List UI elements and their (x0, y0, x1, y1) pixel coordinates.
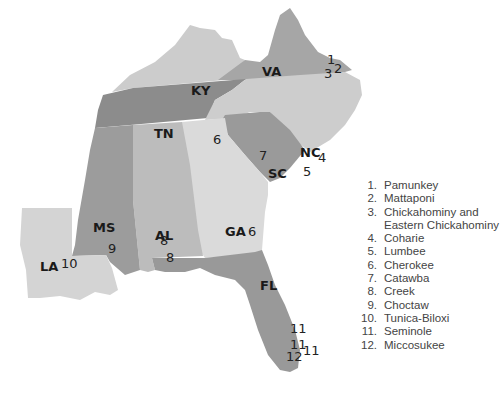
legend-item: 5.Lumbee (355, 245, 504, 258)
legend-item: 12.Miccosukee (355, 339, 504, 352)
marker-6-nc: 6 (213, 132, 221, 147)
marker-8-a: 8 (160, 233, 168, 248)
state-label-tn: TN (154, 126, 174, 141)
legend-item: 1.Pamunkey (355, 179, 504, 192)
marker-11-c: 11 (303, 343, 320, 358)
legend-item: 4.Coharie (355, 232, 504, 245)
marker-12: 12 (286, 349, 303, 364)
state-label-la: LA (40, 259, 58, 274)
legend-item: 3.Chickahominy and Eastern Chickahominy (355, 206, 504, 233)
legend-item: 6.Cherokee (355, 259, 504, 272)
marker-8-b: 8 (166, 250, 174, 265)
legend-item: 9.Choctaw (355, 299, 504, 312)
legend-item: 7.Catawba (355, 272, 504, 285)
legend-item: 2.Mattaponi (355, 192, 504, 205)
state-fl (152, 250, 300, 372)
state-label-va: VA (262, 64, 281, 79)
legend-item: 11.Seminole (355, 325, 504, 338)
legend-item: 8.Creek (355, 285, 504, 298)
marker-11-a: 11 (290, 321, 307, 336)
state-label-ms: MS (93, 220, 115, 235)
marker-6-ga: 6 (248, 224, 256, 239)
legend-item: 10.Tunica-Biloxi (355, 312, 504, 325)
tribe-legend: 1.Pamunkey 2.Mattaponi 3.Chickahominy an… (355, 179, 504, 352)
state-ms (72, 125, 140, 275)
state-label-ga: GA (225, 224, 246, 239)
marker-4: 4 (318, 150, 326, 165)
state-label-sc: SC (268, 166, 287, 181)
state-label-ky: KY (191, 83, 211, 98)
marker-9: 9 (108, 241, 116, 256)
marker-2: 2 (334, 61, 342, 76)
state-label-fl: FL (260, 278, 277, 293)
marker-3: 3 (324, 66, 332, 81)
marker-10: 10 (61, 256, 78, 271)
marker-7: 7 (259, 148, 267, 163)
marker-5: 5 (303, 164, 311, 179)
